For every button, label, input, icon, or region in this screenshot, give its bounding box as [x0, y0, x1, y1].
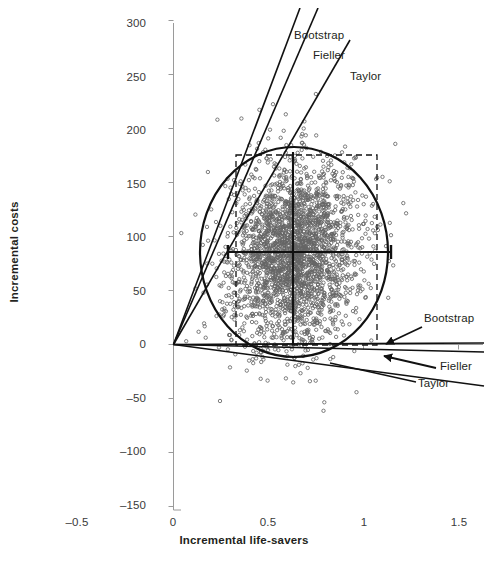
annotation-fieller-right: Fieller [440, 360, 472, 372]
x-tick-label-1: 1 [334, 516, 394, 528]
y-tick-label-minus50: –50 [98, 392, 146, 404]
scatter-chart: 300 250 200 150 100 50 0 –50 –100 –150 –… [0, 0, 488, 562]
y-tick-label-minus100: –100 [98, 445, 146, 457]
annotation-bootstrap-top: Bootstrap [294, 29, 344, 41]
annotation-fieller-top: Fieller [313, 49, 345, 61]
y-tick-label-300: 300 [98, 17, 146, 29]
leader-bootstrap-right [386, 327, 422, 344]
leader-taylor-right [330, 363, 416, 382]
y-tick-label-50: 50 [98, 285, 146, 297]
chart-canvas [0, 0, 488, 562]
y-axis-title: Incremental costs [8, 187, 20, 317]
x-tick-label-minus05: –0.5 [47, 516, 107, 528]
y-tick-label-250: 250 [98, 71, 146, 83]
x-tick-label-05: 0.5 [238, 516, 298, 528]
x-tick-label-15: 1.5 [429, 516, 488, 528]
leader-fieller-right [384, 356, 436, 368]
x-axis-title: Incremental life-savers [0, 534, 488, 546]
y-axis-ticks [169, 21, 174, 507]
annotation-taylor-top: Taylor [350, 70, 381, 82]
y-tick-label-0: 0 [98, 338, 146, 350]
annotation-taylor-right: Taylor [418, 377, 449, 389]
y-tick-label-200: 200 [98, 124, 146, 136]
x-tick-label-0: 0 [143, 516, 203, 528]
y-tick-label-150: 150 [98, 178, 146, 190]
annotation-bootstrap-right: Bootstrap [424, 312, 474, 324]
y-tick-label-minus150: –150 [98, 499, 146, 511]
y-tick-label-100: 100 [98, 231, 146, 243]
x-axis-ticks [174, 345, 459, 511]
